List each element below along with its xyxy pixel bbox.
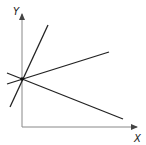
- line-diagram: Y X: [0, 0, 146, 145]
- negative-slope-line: [7, 73, 123, 119]
- x-axis-label: X: [133, 133, 142, 144]
- intersection-point: [20, 77, 24, 81]
- steep-positive-line: [10, 25, 48, 107]
- y-axis-label: Y: [13, 6, 20, 17]
